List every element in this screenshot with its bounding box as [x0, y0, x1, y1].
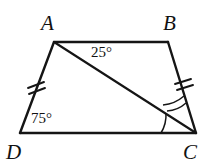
angle-label-ADC: 75°	[31, 110, 52, 126]
vertex-label-D: D	[5, 140, 21, 163]
vertex-label-B: B	[163, 11, 176, 35]
vertex-label-C: C	[183, 140, 198, 163]
arc-ACD	[161, 113, 166, 133]
angle-label-BAC: 25°	[91, 44, 112, 60]
diagonal-AC	[54, 42, 196, 133]
vertex-label-A: A	[39, 11, 54, 35]
geometry-figure: A B C D 25° 75°	[0, 0, 203, 163]
tick-BC-1	[175, 79, 191, 84]
tick-BC-2	[177, 85, 193, 90]
geometry-canvas: A B C D 25° 75°	[0, 0, 203, 163]
arc-ACB-outer	[163, 96, 184, 105]
